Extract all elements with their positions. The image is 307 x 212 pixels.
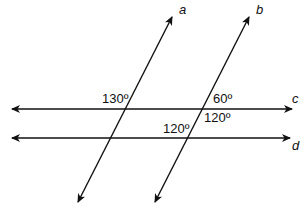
- line-label-c: c: [292, 91, 299, 106]
- angle-label: 130º: [102, 91, 129, 106]
- line-label-b: b: [256, 2, 263, 17]
- line-label-a: a: [179, 2, 186, 17]
- diagram-canvas: abcd 130º60º120º120º: [0, 0, 307, 212]
- angle-label: 120º: [204, 110, 231, 125]
- angle-label: 120º: [163, 121, 190, 136]
- line-label-d: d: [292, 138, 300, 153]
- angle-label: 60º: [213, 91, 232, 106]
